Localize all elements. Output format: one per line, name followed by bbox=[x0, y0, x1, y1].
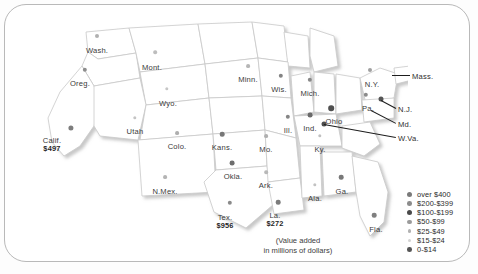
legend-label: $100-$199 bbox=[417, 208, 453, 217]
state-label-ny: N.Y. bbox=[365, 81, 380, 89]
state-name: Ark. bbox=[259, 182, 273, 190]
legend-row: $200-$399 bbox=[406, 199, 472, 208]
state-label-ala: Ala. bbox=[308, 195, 322, 203]
state-label-fla: Fla. bbox=[369, 226, 382, 234]
state-dot-mont bbox=[153, 50, 157, 54]
state-name: N.Y. bbox=[365, 81, 380, 89]
legend-dot bbox=[407, 210, 412, 215]
state-label-utah: Utah bbox=[127, 128, 144, 136]
us-map-graphic bbox=[8, 6, 408, 258]
state-dot-minn bbox=[246, 64, 250, 68]
map-figure: Wash.Oreg.Calif.$497Mont.Wyo.UtahColo.N.… bbox=[0, 0, 478, 274]
state-name: Kans. bbox=[212, 144, 232, 152]
legend-dot bbox=[407, 247, 412, 252]
state-label-mont: Mont. bbox=[142, 64, 162, 72]
state-name: Wis. bbox=[271, 86, 287, 94]
state-value: $272 bbox=[266, 220, 283, 228]
state-name: Ala. bbox=[308, 195, 322, 203]
state-label-mo: Mo. bbox=[259, 146, 272, 154]
state-label-tex: Tex.$956 bbox=[216, 214, 233, 230]
legend-dot-icon bbox=[406, 201, 417, 206]
state-label-oreg: Oreg. bbox=[70, 80, 90, 88]
state-name: Ind. bbox=[303, 125, 316, 133]
legend-label: 0-$14 bbox=[417, 245, 436, 254]
legend-label: $50-$99 bbox=[417, 217, 445, 226]
state-label-wis: Wis. bbox=[271, 86, 287, 94]
state-name: Colo. bbox=[168, 143, 187, 151]
state-name: Mont. bbox=[142, 64, 162, 72]
legend-dot bbox=[408, 239, 411, 242]
state-name: Minn. bbox=[238, 76, 258, 84]
state-label-mich: Mich. bbox=[300, 90, 319, 98]
state-name: Ga. bbox=[336, 188, 349, 196]
map-caption: (Value added in millions of dollars) bbox=[232, 236, 364, 257]
state-label-ark: Ark. bbox=[259, 182, 273, 190]
legend-dot-icon bbox=[406, 229, 417, 233]
legend-row: $100-$199 bbox=[406, 208, 472, 217]
state-name: Mo. bbox=[259, 146, 272, 154]
legend-dot bbox=[407, 201, 412, 206]
state-label-colo: Colo. bbox=[168, 143, 187, 151]
state-name: Utah bbox=[127, 128, 144, 136]
state-dot-ny bbox=[368, 68, 372, 72]
caption-line-2: in millions of dollars) bbox=[232, 246, 364, 256]
state-name: Fla. bbox=[369, 226, 382, 234]
legend-label: over $400 bbox=[417, 190, 451, 199]
state-label-nmex: N.Mex. bbox=[152, 188, 177, 196]
state-label-wyo: Wyo. bbox=[159, 100, 177, 108]
legend-row: over $400 bbox=[406, 190, 472, 199]
legend-row: $15-$24 bbox=[406, 236, 472, 245]
legend-label: $200-$399 bbox=[417, 199, 453, 208]
legend-dot bbox=[408, 229, 412, 233]
legend-dot bbox=[407, 192, 412, 197]
state-label-calif: Calif.$497 bbox=[43, 137, 62, 153]
state-name: Ky. bbox=[314, 146, 325, 154]
state-label-ga: Ga. bbox=[336, 188, 349, 196]
state-label-wash: Wash. bbox=[86, 47, 108, 55]
state-value: $956 bbox=[216, 222, 233, 230]
state-name: Ill. bbox=[284, 127, 292, 135]
state-dot-fla bbox=[372, 213, 377, 218]
state-dot-la bbox=[276, 200, 281, 205]
callout-label-mass: Mass. bbox=[412, 72, 433, 81]
legend-label: $15-$24 bbox=[417, 236, 445, 245]
state-label-minn: Minn. bbox=[238, 76, 258, 84]
callout-label-nj: N.J. bbox=[398, 105, 412, 114]
state-label-kans: Kans. bbox=[212, 144, 232, 152]
legend-row: $25-$49 bbox=[406, 227, 472, 236]
state-dot-nmex bbox=[163, 175, 167, 179]
legend-dot-icon bbox=[406, 239, 417, 242]
legend-row: 0-$14 bbox=[406, 245, 472, 254]
legend-dot-icon bbox=[406, 220, 417, 224]
state-label-ill: Ill. bbox=[284, 127, 292, 135]
legend-dot bbox=[407, 220, 411, 224]
state-label-la: La.$272 bbox=[266, 212, 283, 228]
state-dot-wash bbox=[95, 34, 99, 38]
state-name: Wyo. bbox=[159, 100, 177, 108]
legend-dot-icon bbox=[406, 192, 417, 197]
state-dot-ind bbox=[308, 113, 313, 118]
state-dot-okla bbox=[230, 161, 235, 166]
state-dot-kans bbox=[220, 132, 225, 137]
legend-row: $50-$99 bbox=[406, 218, 472, 227]
state-name: Wash. bbox=[86, 47, 108, 55]
state-dot-colo bbox=[175, 131, 179, 135]
caption-line-1: (Value added bbox=[232, 236, 364, 246]
state-label-okla: Okla. bbox=[224, 173, 243, 181]
state-dot-ga bbox=[339, 175, 344, 180]
state-dot-ohio bbox=[328, 105, 334, 111]
state-name: Okla. bbox=[224, 173, 243, 181]
legend-dot-icon bbox=[406, 210, 417, 215]
state-label-ky: Ky. bbox=[314, 146, 325, 154]
state-dot-ark bbox=[264, 170, 268, 174]
state-dot-mo bbox=[264, 134, 268, 138]
callout-label-wva: W.Va. bbox=[398, 134, 419, 143]
legend-dot-icon bbox=[406, 247, 417, 252]
state-value: $497 bbox=[43, 145, 62, 153]
state-name: N.Mex. bbox=[152, 188, 177, 196]
map-legend: over $400$200-$399$100-$199$50-$99$25-$4… bbox=[406, 190, 472, 254]
state-name: Oreg. bbox=[70, 80, 90, 88]
legend-label: $25-$49 bbox=[417, 227, 445, 236]
state-label-ind: Ind. bbox=[303, 125, 316, 133]
state-name: Mich. bbox=[300, 90, 319, 98]
